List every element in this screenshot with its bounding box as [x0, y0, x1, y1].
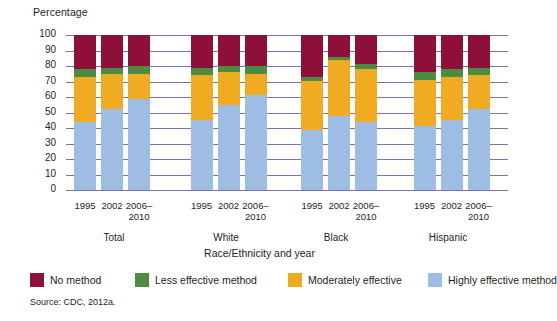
stacked-bar [441, 35, 463, 190]
bar-segment-mod [245, 74, 267, 96]
bar-segment-high [355, 122, 377, 190]
y-tick-label: 0 [4, 184, 56, 194]
bar-segment-high [128, 99, 150, 190]
x-axis-title: Race/Ethnicity and year [0, 247, 519, 259]
group-label-white: White [171, 232, 281, 243]
legend-item-high[interactable]: Highly effective method [428, 272, 557, 288]
bar-segment-mod [355, 69, 377, 122]
bar-segment-less [441, 69, 463, 77]
bar-segment-mod [191, 75, 213, 120]
bar-segment-none [128, 35, 150, 66]
bar-segment-none [355, 35, 377, 64]
bar-segment-mod [218, 72, 240, 105]
legend-item-none[interactable]: No method [30, 272, 101, 288]
stacked-bar [328, 35, 350, 190]
gridline [66, 190, 508, 191]
bar-segment-none [191, 35, 213, 68]
bar-segment-mod [441, 77, 463, 120]
bar-segment-none [414, 35, 436, 72]
stacked-bar [355, 35, 377, 190]
stacked-bar [468, 35, 490, 190]
y-tick-label: 50 [4, 107, 56, 117]
y-tick-label: 70 [4, 76, 56, 86]
bar-segment-less [414, 72, 436, 80]
group-label-hispanic: Hispanic [393, 232, 503, 243]
bar-segment-less [74, 69, 96, 77]
bar-segment-high [191, 120, 213, 190]
stacked-bar [101, 35, 123, 190]
stacked-bar [218, 35, 240, 190]
bar-segment-none [74, 35, 96, 69]
y-tick-label: 60 [4, 91, 56, 101]
stacked-bar [191, 35, 213, 190]
bar-segment-mod [414, 80, 436, 127]
bar-series-container [66, 35, 508, 190]
legend-label: Moderately effective [308, 274, 402, 286]
legend-swatch-mod-icon [288, 273, 302, 287]
x-axis-tick-labels: 199520022006–2010199520022006–2010199520… [66, 192, 508, 234]
group-label-black: Black [281, 232, 391, 243]
stacked-bar [74, 35, 96, 190]
bar-segment-high [414, 126, 436, 190]
y-tick-label: 90 [4, 45, 56, 55]
stacked-bar [414, 35, 436, 190]
y-tick-label: 100 [4, 29, 56, 39]
legend-item-mod[interactable]: Moderately effective [288, 272, 402, 288]
stacked-bar [301, 35, 323, 190]
bar-segment-high [101, 109, 123, 190]
bar-segment-less [468, 68, 490, 76]
legend-item-less[interactable]: Less effective method [135, 272, 257, 288]
legend-swatch-less-icon [135, 273, 149, 287]
y-tick-label: 40 [4, 122, 56, 132]
bar-segment-less [191, 68, 213, 76]
bar-segment-mod [128, 74, 150, 99]
bar-segment-high [468, 109, 490, 190]
y-tick-label: 80 [4, 60, 56, 70]
group-label-total: Total [59, 232, 169, 243]
bar-segment-high [301, 130, 323, 190]
stacked-bar [128, 35, 150, 190]
bar-segment-none [101, 35, 123, 68]
x-tick-label: 2006–2010 [119, 200, 159, 222]
stacked-bar [245, 35, 267, 190]
plot-area [66, 35, 508, 190]
legend-label: Highly effective method [448, 274, 557, 286]
legend-label: No method [50, 274, 101, 286]
bar-segment-mod [468, 75, 490, 109]
y-tick-label: 20 [4, 153, 56, 163]
bar-segment-none [218, 35, 240, 66]
bar-segment-high [328, 116, 350, 190]
source-note: Source: CDC, 2012a. [30, 297, 116, 307]
bar-segment-high [218, 105, 240, 190]
bar-segment-none [301, 35, 323, 77]
x-tick-label: 2006–2010 [236, 200, 276, 222]
bar-segment-none [468, 35, 490, 68]
legend-label: Less effective method [155, 274, 257, 286]
bar-segment-none [328, 35, 350, 57]
chart-legend: No methodLess effective methodModerately… [30, 272, 500, 290]
y-tick-label: 10 [4, 169, 56, 179]
legend-swatch-high-icon [428, 273, 442, 287]
bar-segment-less [128, 66, 150, 74]
bar-segment-high [245, 95, 267, 190]
bar-segment-none [441, 35, 463, 69]
bar-segment-mod [301, 81, 323, 129]
x-tick-label: 2006–2010 [459, 200, 499, 222]
bar-segment-mod [101, 74, 123, 110]
y-tick-label: 30 [4, 138, 56, 148]
legend-swatch-none-icon [30, 273, 44, 287]
bar-segment-mod [328, 60, 350, 116]
bar-segment-less [245, 66, 267, 74]
bar-segment-mod [74, 77, 96, 122]
x-tick-label: 2006–2010 [346, 200, 386, 222]
bar-segment-high [441, 120, 463, 190]
bar-segment-none [245, 35, 267, 66]
bar-segment-high [74, 122, 96, 190]
